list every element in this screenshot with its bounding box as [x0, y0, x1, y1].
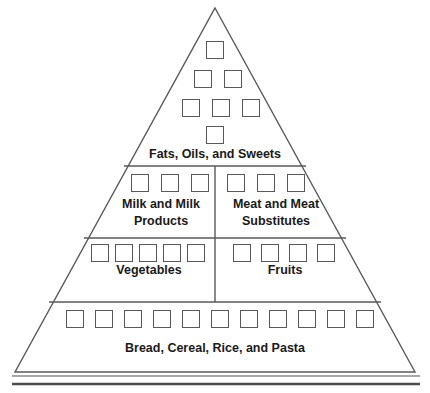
serving-square	[187, 244, 205, 262]
serving-square	[131, 174, 149, 192]
tier-label-milk-and-milk-products: Milk and Milk Products	[107, 196, 215, 230]
serving-square	[257, 174, 275, 192]
serving-square	[227, 174, 245, 192]
serving-square	[289, 244, 307, 262]
serving-square	[191, 174, 209, 192]
serving-square	[182, 99, 200, 117]
tier-label-vegetables: Vegetables	[89, 262, 209, 278]
serving-square	[224, 70, 242, 88]
serving-square	[206, 126, 224, 144]
serving-square	[66, 310, 84, 328]
serving-square	[91, 244, 109, 262]
serving-square	[269, 310, 287, 328]
serving-square	[161, 174, 179, 192]
serving-square	[317, 244, 335, 262]
serving-square	[298, 310, 316, 328]
serving-square	[206, 41, 224, 59]
tier-label-bread-cereal-rice-pasta: Bread, Cereal, Rice, and Pasta	[95, 340, 335, 356]
serving-square	[261, 244, 279, 262]
serving-square	[212, 99, 230, 117]
serving-square	[153, 310, 171, 328]
serving-square	[233, 244, 251, 262]
tier-label-fats-oils-sweets: Fats, Oils, and Sweets	[115, 146, 315, 162]
serving-square	[124, 310, 142, 328]
serving-square	[115, 244, 133, 262]
serving-square	[182, 310, 200, 328]
serving-square	[211, 310, 229, 328]
serving-square	[356, 310, 374, 328]
serving-square	[242, 99, 260, 117]
serving-square	[163, 244, 181, 262]
tier-label-meat-and-meat-substitutes: Meat and Meat Substitutes	[218, 196, 334, 230]
serving-square	[240, 310, 258, 328]
serving-square	[139, 244, 157, 262]
serving-square	[327, 310, 345, 328]
serving-square	[194, 70, 212, 88]
serving-square	[287, 174, 305, 192]
tier-label-fruits: Fruits	[225, 262, 345, 278]
food-pyramid-diagram: Fats, Oils, and Sweets Milk and Milk Pro…	[0, 0, 430, 393]
serving-square	[95, 310, 113, 328]
